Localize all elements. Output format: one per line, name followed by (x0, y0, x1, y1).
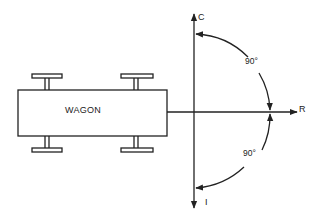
arc-lower-left (196, 167, 244, 188)
wagon-label: WAGON (65, 106, 101, 115)
arc-lower-right (262, 114, 270, 150)
axis-r-label: R (299, 105, 306, 114)
wheel-rear-right (121, 136, 153, 152)
axis-c-label: C (198, 13, 205, 22)
axis-i-label: I (205, 198, 208, 207)
wheel-front-right (32, 136, 62, 152)
wheel-front-left (32, 74, 62, 90)
arc-upper-right (259, 73, 270, 110)
angle-upper-label: 90° (245, 57, 258, 66)
diagram-canvas (0, 0, 320, 220)
wheel-rear-left (121, 74, 153, 90)
angle-lower-label: 90° (243, 149, 256, 158)
arc-upper-left (196, 34, 248, 57)
